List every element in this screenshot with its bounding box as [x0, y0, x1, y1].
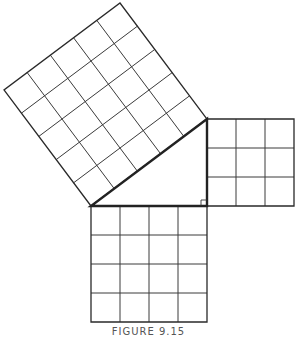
right-square-3x3 — [207, 119, 294, 206]
figure-caption: FIGURE 9.15 — [0, 326, 297, 337]
bottom-square-4x4 — [91, 206, 207, 322]
square-outline — [207, 119, 294, 206]
